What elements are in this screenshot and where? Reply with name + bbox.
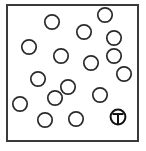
plain-circle	[45, 15, 59, 29]
plain-circle	[84, 56, 98, 70]
target-circle	[111, 110, 126, 125]
plain-circle	[22, 40, 36, 54]
plain-circle	[31, 72, 45, 86]
plain-circle	[117, 67, 131, 81]
plain-circle	[107, 49, 121, 63]
plain-circle	[77, 25, 91, 39]
plain-circle	[38, 113, 52, 127]
figure-root: Scattered open circles in a rectangular …	[0, 0, 146, 151]
plain-circle	[13, 97, 27, 111]
plain-circle	[69, 112, 83, 126]
plain-circle	[54, 49, 68, 63]
plain-circle	[48, 91, 62, 105]
marked-circles-group	[111, 110, 126, 125]
plain-circle	[98, 8, 112, 22]
plain-circle	[61, 80, 75, 94]
plain-circle	[107, 31, 121, 45]
circles-figure-canvas	[0, 0, 146, 151]
plain-circle	[93, 88, 107, 102]
